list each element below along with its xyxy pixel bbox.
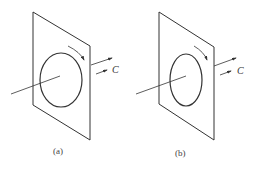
loop-a xyxy=(40,53,82,107)
out-arrow-a1 xyxy=(91,58,112,65)
rotation-arrow-b xyxy=(194,46,207,60)
panel-b-drawing xyxy=(136,12,236,140)
caption-b: (b) xyxy=(175,148,186,158)
out-arrow-b2 xyxy=(220,71,231,75)
plane-b xyxy=(159,12,214,140)
rotation-arrow-a xyxy=(68,46,84,60)
panel-a-drawing xyxy=(11,12,112,140)
vector-label-b: C xyxy=(237,65,244,76)
out-arrow-b1 xyxy=(214,58,236,66)
incoming-arrow-a xyxy=(11,76,60,94)
vector-label-a: C xyxy=(112,64,119,75)
diagram-canvas xyxy=(0,0,254,169)
incoming-arrow-b xyxy=(136,76,186,94)
out-arrow-a2 xyxy=(96,70,107,74)
caption-a: (a) xyxy=(53,146,63,156)
